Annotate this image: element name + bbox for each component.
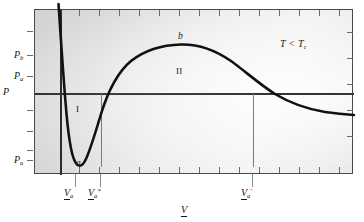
- x-label-va-sub: a: [70, 192, 73, 199]
- xlabel-stem-va-prime: [252, 174, 253, 187]
- region-label-two: II: [176, 66, 183, 76]
- x-axis-title-text: V: [181, 204, 187, 217]
- y-tick: [27, 160, 33, 161]
- temperature-annotation: T < Tc: [280, 38, 307, 49]
- point-label-a: a: [76, 158, 81, 168]
- x-axis-title: V: [181, 205, 187, 215]
- y-tick: [27, 110, 33, 111]
- y-label-pa-sub: a: [20, 75, 23, 82]
- x-label-va-star-sup: *: [97, 187, 101, 195]
- temperature-annotation-text: T < T: [280, 38, 304, 49]
- x-label-va-prime-sup: ': [250, 187, 252, 195]
- y-tick: [27, 31, 33, 32]
- y-axis-title-text: P: [3, 86, 9, 97]
- xlabel-stem-va: [75, 174, 76, 187]
- x-label-va-prime: Va': [241, 188, 252, 198]
- point-label-b: b: [178, 31, 183, 41]
- y-label-pb-sub: b: [20, 54, 23, 61]
- y-label-pa-bottom: Pa: [14, 155, 23, 165]
- y-label-pa-bottom-sub: a: [20, 159, 23, 166]
- y-label-pa: Pa: [14, 71, 23, 81]
- isotherm-curve: [35, 10, 354, 175]
- y-tick: [27, 76, 33, 77]
- xlabel-stem-va-star: [100, 174, 101, 187]
- figure-canvas: Pb Pa P Pa: [0, 0, 364, 222]
- y-axis-title: P: [3, 87, 9, 97]
- y-tick: [27, 150, 33, 151]
- y-label-pb: Pb: [14, 50, 23, 60]
- x-label-va-star: Va*: [88, 188, 101, 198]
- temperature-annotation-sub: c: [304, 43, 307, 50]
- x-label-va: Va: [64, 188, 73, 198]
- y-tick: [27, 131, 33, 132]
- curve-path: [59, 4, 355, 166]
- y-tick: [27, 55, 33, 56]
- region-label-one: I: [76, 104, 79, 114]
- plot-area: I II a b T < Tc: [34, 9, 353, 174]
